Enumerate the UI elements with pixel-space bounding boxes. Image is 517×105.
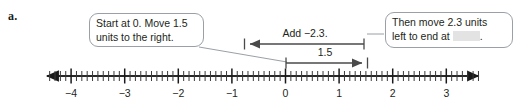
tick-label: −2 — [172, 87, 184, 99]
callout-end-line2-text: left to end at — [392, 30, 450, 42]
callout-start-instruction: Start at 0. Move 1.5 units to the right. — [89, 13, 204, 47]
number-line-figure: a. Add −2.3. 1.5 — [0, 0, 517, 105]
tick-label: −4 — [65, 87, 77, 99]
callout-end-period: . — [480, 30, 483, 42]
vector-move: 1.5 — [286, 46, 368, 69]
callout-end-line1: Then move 2.3 units — [392, 16, 506, 30]
answer-blank-box[interactable] — [453, 31, 480, 41]
leader-start-callout — [199, 47, 287, 62]
vector-move-label: 1.5 — [318, 46, 333, 58]
callout-start-line1: Start at 0. Move 1.5 — [96, 17, 197, 31]
vector-add-label: Add −2.3. — [282, 27, 327, 39]
tick-label: −3 — [119, 87, 131, 99]
tick-label: 0 — [283, 87, 289, 99]
callout-end-line2: left to end at . — [392, 30, 506, 44]
callout-end-instruction: Then move 2.3 units left to end at . — [385, 12, 513, 48]
tick-label: 2 — [390, 87, 396, 99]
tick-label: 3 — [443, 87, 449, 99]
tick-label-group: −4−3−2−10123 — [65, 87, 449, 99]
tick-label: 1 — [336, 87, 342, 99]
tick-label: −1 — [226, 87, 238, 99]
vector-add: Add −2.3. — [245, 27, 365, 50]
callout-start-line2: units to the right. — [96, 31, 197, 45]
minor-tick-group — [50, 71, 479, 81]
